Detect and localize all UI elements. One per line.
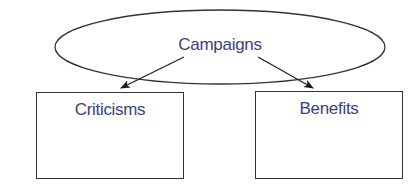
edge-campaigns-to-benefits <box>258 57 313 88</box>
edge-campaigns-to-criticisms <box>121 57 184 88</box>
benefits-label: Benefits <box>299 99 358 119</box>
campaigns-label: Campaigns <box>178 35 261 55</box>
criticisms-label: Criticisms <box>75 100 146 120</box>
